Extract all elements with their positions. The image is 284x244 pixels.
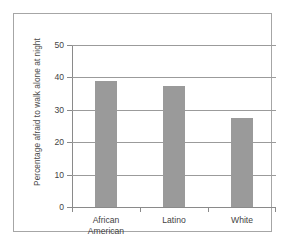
figure-frame: Percentage afraid to walk alone at night… <box>13 13 272 232</box>
x-tick-mark-0 <box>72 207 73 212</box>
y-tick-label-20: 20 <box>54 137 64 147</box>
y-tick-mark-50 <box>67 45 72 46</box>
x-tick-mark-2 <box>208 207 209 212</box>
bar-african-american <box>95 81 117 207</box>
bar-white <box>231 118 253 207</box>
y-tick-label-30: 30 <box>54 105 64 115</box>
x-tick-mark-1 <box>140 207 141 212</box>
gridline-50: 50 <box>72 45 276 46</box>
y-axis-line <box>72 45 73 207</box>
x-axis-label-line-2: American <box>63 226 149 237</box>
y-axis-title: Percentage afraid to walk alone at night <box>32 27 42 197</box>
y-tick-mark-30 <box>67 110 72 111</box>
plot-area: 50 40 30 20 10 0 <box>72 45 276 207</box>
x-axis-baseline: 0 <box>72 207 276 208</box>
figure-container: Percentage afraid to walk alone at night… <box>0 0 284 244</box>
bar-latino <box>163 86 185 208</box>
y-tick-mark-10 <box>67 175 72 176</box>
x-axis-label-white: White <box>199 215 284 226</box>
y-tick-label-0: 0 <box>59 202 64 212</box>
gridline-40: 40 <box>72 77 276 78</box>
x-tick-mark-3 <box>275 207 276 212</box>
y-tick-label-10: 10 <box>54 170 64 180</box>
y-tick-label-40: 40 <box>54 72 64 82</box>
y-tick-mark-40 <box>67 77 72 78</box>
x-axis-label-line-1: White <box>199 215 284 226</box>
y-tick-label-50: 50 <box>54 40 64 50</box>
y-tick-mark-20 <box>67 142 72 143</box>
